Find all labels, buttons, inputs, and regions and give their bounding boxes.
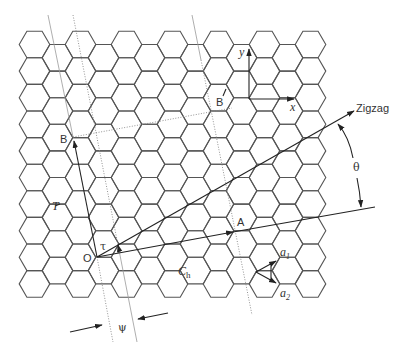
hexagon-cell [42,71,73,98]
hexagon-cell [180,71,211,98]
hexagon-cell [180,231,211,258]
hexagon-cell [295,271,326,298]
hexagon-cell [203,138,234,165]
hexagon-cell [111,138,142,165]
a2-label: a2 [280,286,290,302]
hexagon-cell [295,244,326,271]
a2-vector [256,272,276,283]
hexagon-cell [134,45,165,72]
hexagon-cell [180,178,211,205]
hexagon-cell [88,178,119,205]
hexagon-cell [272,71,303,98]
point-a-label: A [237,216,245,228]
hexagon-cell [134,231,165,258]
hexagon-cell [111,58,142,85]
guide-line-through-o-bottom [97,257,113,342]
hexagon-cell [249,58,280,85]
hexagon-cell [19,58,50,85]
y-axis-label: y [238,45,245,59]
hexagon-cell [295,31,326,58]
hexagon-cell [226,231,257,258]
hexagon-cell [249,111,280,138]
hexagon-cell [226,71,257,98]
hexagon-cell [157,164,188,191]
hexagon-cell [203,111,234,138]
hexagon-cell [295,58,326,85]
hexagon-cell [226,257,257,284]
hexagon-cell [272,98,303,125]
hexagon-cell [111,31,142,58]
hexagon-cell [88,98,119,125]
hexagon-cell [203,191,234,218]
hexagon-cell [111,164,142,191]
hexagon-cell [88,204,119,231]
b-marker-tick [223,89,226,96]
a1-label: a1 [280,245,290,261]
hexagon-cell [249,271,280,298]
hexagon-cell [180,98,211,125]
zigzag-label: Zigzag [356,102,389,114]
hexagon-cell [42,231,73,258]
hexagon-cell [157,84,188,111]
psi-label: ψ [118,321,127,334]
theta-arc-lower [357,178,361,207]
point-o-label: O [83,252,92,264]
hexagon-cell [203,244,234,271]
hexagon-cell [157,111,188,138]
hexagon-cell [19,84,50,111]
theta-label: θ [353,161,360,174]
hexagon-cell [88,151,119,178]
psi-left-arrow [70,325,102,332]
hexagon-cell [88,45,119,72]
hexagon-cell [203,31,234,58]
hexagon-cell [19,191,50,218]
hexagon-cell [134,124,165,151]
chiral-vector-label-sub: h [186,270,191,280]
hexagon-cell [134,178,165,205]
hexagon-cell [272,178,303,205]
hexagon-cell [134,151,165,178]
hexagon-cell [295,191,326,218]
theta-arc-upper [338,124,353,158]
hexagon-cell [249,84,280,111]
chiral-vector-diagram: y x O A B B Zigzag θ τ ψ T Ch a1 a2 [0,0,399,354]
hexagon-cell [157,58,188,85]
hexagon-cell [19,244,50,271]
hexagon-cell [249,244,280,271]
hexagon-cell [42,98,73,125]
hexagon-cell [134,98,165,125]
point-b-left-label: B [60,133,67,145]
hexagon-cell [88,124,119,151]
psi-right-arrow [138,313,168,319]
hexagon-cell [180,124,211,151]
guide-lines [48,15,252,342]
x-axis-label: x [289,100,296,114]
hexagon-cell [111,191,142,218]
a2-label-sub: 2 [286,293,290,302]
hexagon-cell [42,257,73,284]
point-b-right-label: B [216,96,223,108]
guide-line-through-a-top [192,15,201,60]
hexagon-cell [88,71,119,98]
hexagon-cell [203,271,234,298]
hexagon-cell [65,138,96,165]
hexagon-cell [295,217,326,244]
translation-vector-label: T [52,199,60,213]
xy-axes: y x [238,45,296,114]
hexagon-cell [272,204,303,231]
hexagon-cell [65,58,96,85]
hexagon-cell [19,138,50,165]
guide-line-psi-top [73,15,118,245]
hexagon-cell [249,191,280,218]
hexagon-cell [65,164,96,191]
hexagon-cell [272,45,303,72]
hexagon-cell [19,31,50,58]
hexagon-cell [19,271,50,298]
hexagon-cell [180,45,211,72]
vectors [55,89,375,332]
hexagon-cell [19,111,50,138]
tau-angle-arc [118,245,119,253]
hexagon-cell [295,111,326,138]
hexagon-cell [272,257,303,284]
hexagon-cell [88,257,119,284]
